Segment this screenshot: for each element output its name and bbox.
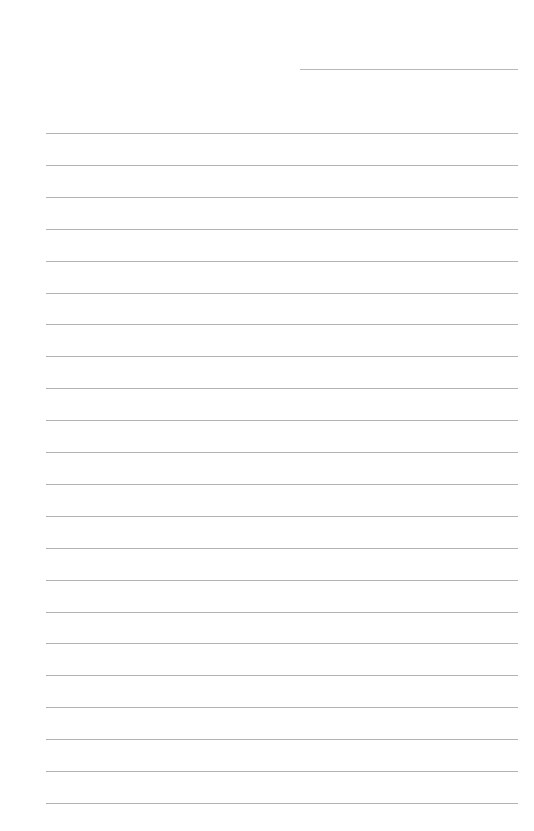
ruled-line [46, 197, 518, 198]
ruled-line [46, 261, 518, 262]
ruled-line [46, 675, 518, 676]
ruled-line [46, 484, 518, 485]
ruled-line [46, 771, 518, 772]
ruled-line [46, 643, 518, 644]
ruled-line [46, 324, 518, 325]
ruled-line [46, 803, 518, 804]
ruled-line [46, 165, 518, 166]
ruled-line [46, 548, 518, 549]
ruled-line [46, 580, 518, 581]
ruled-line [46, 707, 518, 708]
ruled-line [46, 356, 518, 357]
ruled-line [46, 612, 518, 613]
ruled-line [46, 133, 518, 134]
ruled-line [46, 516, 518, 517]
date-line [300, 69, 518, 70]
ruled-line [46, 739, 518, 740]
ruled-line [46, 452, 518, 453]
ruled-line [46, 293, 518, 294]
ruled-line [46, 388, 518, 389]
ruled-line [46, 420, 518, 421]
lined-paper-page [0, 0, 534, 831]
ruled-line [46, 229, 518, 230]
